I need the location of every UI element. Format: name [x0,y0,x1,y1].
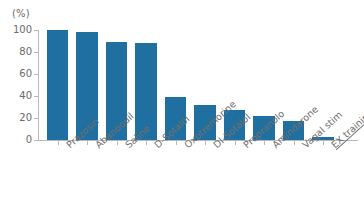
y-tick-label: 100 [13,25,32,35]
y-tick-mark [34,52,38,53]
x-tick-label: Amindarone [270,142,277,150]
bar [47,30,69,140]
x-tick-label: EX training [329,142,336,150]
y-tick-mark [34,74,38,75]
x-tick-label: Dl-Sotalol [211,142,218,150]
x-axis-tick-labels: PrazosinAbanoquilSalineD-SotalolOxotremo… [38,142,364,214]
y-tick-mark [34,30,38,31]
y-tick-label: 40 [19,91,32,101]
y-axis-spine [38,30,39,140]
y-tick-label: 20 [19,113,32,123]
bar-chart-figure: (%) 020406080100 PrazosinAbanoquilSaline… [0,0,364,214]
y-tick-label: 60 [19,69,32,79]
x-tick-label: Prazosin [64,142,71,150]
y-tick-mark [34,140,38,141]
x-tick-label: Saline [123,142,130,150]
y-axis-unit-label: (%) [12,8,30,19]
y-axis-tick-labels: 020406080100 [2,30,32,140]
x-tick-label: Vagal stim [300,142,307,150]
y-tick-mark [34,118,38,119]
x-tick-label: D-Sotalol [152,142,159,150]
x-tick-label: Abanoquil [93,142,100,150]
y-tick-mark [34,96,38,97]
y-tick-label: 0 [26,135,32,145]
x-tick-label: Propranolo [241,142,248,150]
y-tick-label: 80 [19,47,32,57]
x-tick-label: Oxotremorine [182,142,189,150]
